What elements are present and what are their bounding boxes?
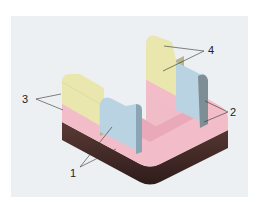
label-2: 2	[230, 106, 236, 118]
label-3: 3	[22, 93, 28, 105]
diagram: 3 1 4 2	[0, 0, 256, 207]
label-1: 1	[70, 167, 76, 179]
label-4: 4	[208, 44, 214, 56]
